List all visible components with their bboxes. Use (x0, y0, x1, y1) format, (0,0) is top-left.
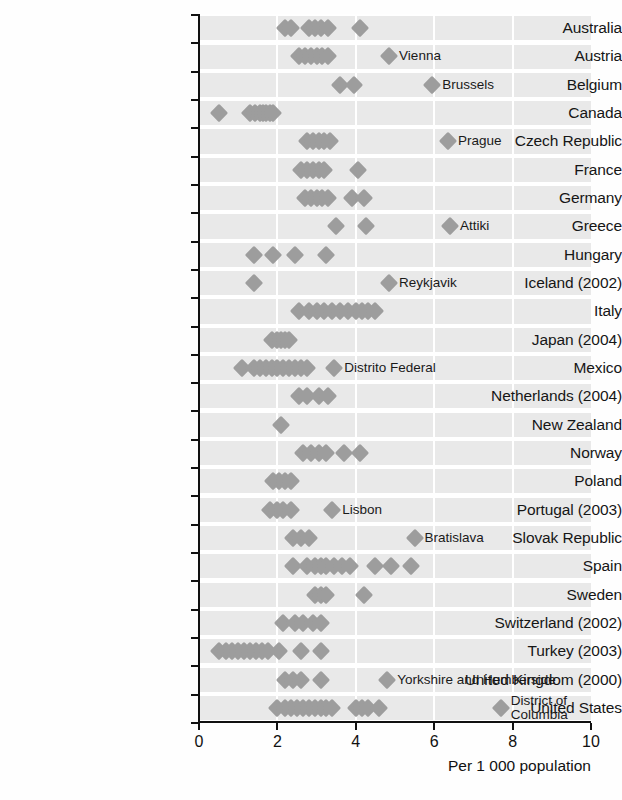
point-annotation-district-of: District of Columbia (511, 693, 568, 722)
y-axis-tick (191, 552, 199, 554)
y-axis-tick (191, 326, 199, 328)
category-label-france: France (432, 162, 622, 178)
y-axis-tick (191, 382, 199, 384)
category-label-turkey-2003: Turkey (2003) (432, 643, 622, 659)
category-label-italy: Italy (432, 303, 622, 319)
category-label-iceland-2002: Iceland (2002) (432, 275, 622, 291)
y-axis-tick (191, 354, 199, 356)
category-label-germany: Germany (432, 190, 622, 206)
x-axis-tick-label: 6 (430, 733, 439, 751)
x-axis-tick-label: 2 (273, 733, 282, 751)
y-axis-tick (191, 184, 199, 186)
category-label-norway: Norway (432, 445, 622, 461)
point-annotation-brussels: Brussels (442, 78, 494, 92)
category-label-sweden: Sweden (432, 587, 622, 603)
x-axis-tick (355, 723, 357, 730)
y-axis-tick (191, 212, 199, 214)
point-annotation-lisbon: Lisbon (342, 503, 382, 517)
y-axis-tick (191, 269, 199, 271)
y-axis-tick (191, 524, 199, 526)
category-label-portugal-2003: Portugal (2003) (432, 502, 622, 518)
y-axis-tick (191, 439, 199, 441)
x-axis-tick-label: 10 (582, 733, 600, 751)
y-axis-tick (191, 156, 199, 158)
y-axis-tick (191, 14, 199, 16)
category-label-spain: Spain (432, 558, 622, 574)
category-label-hungary: Hungary (432, 247, 622, 263)
x-axis-title: Per 1 000 population (448, 757, 591, 775)
x-axis-tick-label: 8 (508, 733, 517, 751)
y-axis-tick (191, 241, 199, 243)
y-axis-tick (191, 580, 199, 582)
y-axis-tick (191, 665, 199, 667)
point-annotation-attiki: Attiki (460, 220, 489, 234)
category-label-austria: Austria (432, 48, 622, 64)
y-axis-tick (191, 467, 199, 469)
category-label-mexico: Mexico (432, 360, 622, 376)
y-axis-line (198, 14, 200, 723)
point-annotation-reykjavik: Reykjavik (399, 276, 457, 290)
y-axis-tick (191, 71, 199, 73)
x-axis-tick (433, 723, 435, 730)
point-annotation-distrito-federal: Distrito Federal (344, 361, 436, 375)
category-label-switzerland-2002: Switzerland (2002) (432, 615, 622, 631)
point-annotation-prague: Prague (458, 135, 502, 149)
y-axis-tick (191, 495, 199, 497)
x-axis-tick (276, 723, 278, 730)
y-axis-tick (191, 694, 199, 696)
category-label-new-zealand: New Zealand (432, 417, 622, 433)
point-annotation-vienna: Vienna (399, 50, 441, 64)
category-label-japan-2004: Japan (2004) (432, 332, 622, 348)
x-axis-tick (198, 723, 200, 730)
y-axis-tick (191, 410, 199, 412)
x-axis-tick (590, 723, 592, 730)
y-axis-tick (191, 637, 199, 639)
point-annotation-bratislava: Bratislava (425, 531, 484, 545)
y-axis-tick (191, 42, 199, 44)
y-axis-tick (191, 99, 199, 101)
x-axis-tick-label: 4 (351, 733, 360, 751)
category-label-netherlands-2004: Netherlands (2004) (432, 388, 622, 404)
x-axis-tick (512, 723, 514, 730)
y-axis-tick (191, 127, 199, 129)
category-label-poland: Poland (432, 473, 622, 489)
point-annotation-yorkshire-and-humberside: Yorkshire and Humberside (397, 673, 556, 687)
category-label-canada: Canada (432, 105, 622, 121)
scatter-chart: AustraliaAustriaBelgiumCanadaCzech Repub… (0, 0, 622, 800)
y-axis-tick (191, 297, 199, 299)
category-label-australia: Australia (432, 20, 622, 36)
y-axis-tick (191, 609, 199, 611)
x-axis-tick-label: 0 (195, 733, 204, 751)
